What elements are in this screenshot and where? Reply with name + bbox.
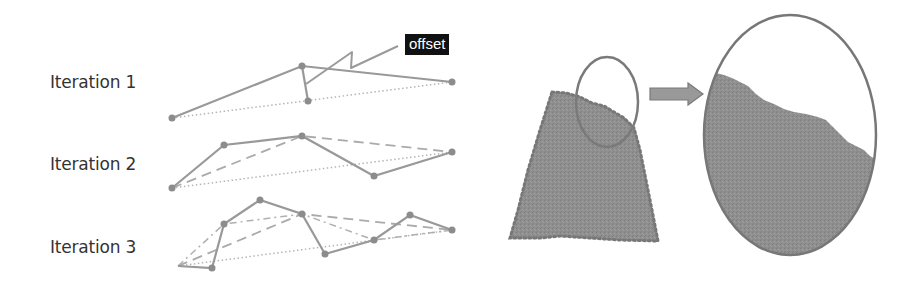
baseline-dotted (172, 152, 452, 188)
point (299, 63, 306, 70)
point (371, 173, 378, 180)
point (449, 149, 456, 156)
iteration-1-graph (169, 46, 456, 122)
baseline-dotted (172, 82, 452, 118)
iteration-2-graph (169, 133, 456, 192)
point (221, 221, 228, 228)
point (407, 212, 414, 219)
magnified-fill (700, 72, 880, 260)
previous-dashed (172, 136, 452, 188)
polyline (172, 136, 452, 188)
point (305, 98, 312, 105)
point (449, 79, 456, 86)
terrain-shape (510, 57, 658, 241)
arrow-right-icon (650, 83, 703, 105)
point (299, 211, 306, 218)
offset-label: offset (405, 34, 449, 55)
point (169, 185, 176, 192)
point (209, 265, 216, 272)
zoom-circle-large (700, 15, 880, 260)
point (169, 115, 176, 122)
point (322, 251, 329, 258)
point (449, 227, 456, 234)
point (371, 237, 378, 244)
point (221, 142, 228, 149)
point (299, 133, 306, 140)
offset-leader-line (306, 46, 398, 84)
iteration-3-graph (178, 197, 456, 272)
diagram-canvas (0, 0, 923, 287)
polyline (178, 200, 452, 268)
polyline (172, 66, 452, 118)
point (257, 197, 264, 204)
